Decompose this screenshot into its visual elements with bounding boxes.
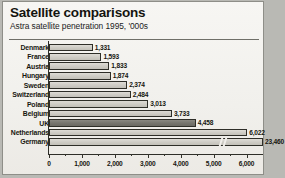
- bar-category-label: Denmark: [0, 43, 49, 52]
- x-axis-tick-minor: [98, 154, 99, 156]
- bar-row: UK4,458: [3, 119, 265, 128]
- bar-value-label: 3,013: [150, 100, 166, 108]
- bar-category-label: Poland: [0, 100, 49, 109]
- bar-track: 1,833: [49, 62, 263, 70]
- bar-row: Austria1,833: [3, 62, 265, 71]
- bar: [49, 53, 101, 61]
- chart-subtitle: Astra satellite penetration 1995, '000s: [10, 21, 257, 32]
- x-axis-tick-label: 0: [47, 160, 50, 167]
- x-axis-tick-label: 3,000: [140, 160, 156, 167]
- bar: [49, 119, 196, 127]
- header-divider: [9, 39, 259, 40]
- bar-row: Netherlands6,022: [3, 128, 265, 137]
- bar-track: 4,458: [49, 119, 263, 127]
- bar-value-label: 1,331: [95, 44, 111, 52]
- bar-row: France1,593: [3, 52, 265, 61]
- bar-row: Switzerland2,484: [3, 90, 265, 99]
- bar: [49, 138, 263, 146]
- x-axis-tick-major: [247, 154, 248, 158]
- x-axis-tick-label: 5,000: [206, 160, 222, 167]
- x-axis-tick-major: [49, 154, 50, 158]
- bar-track: 2,374: [49, 81, 263, 89]
- x-axis-tick-minor: [164, 154, 165, 156]
- bar-row: Germany23,460: [3, 137, 265, 146]
- bar-track: 1,874: [49, 72, 263, 80]
- bar-value-label: 3,733: [174, 110, 190, 118]
- x-axis-tick-label: 1,000: [74, 160, 90, 167]
- x-axis-tick-minor: [197, 154, 198, 156]
- bar-track: 1,331: [49, 44, 263, 52]
- bar-category-label: Belgium: [0, 109, 49, 118]
- x-axis-tick-minor: [131, 154, 132, 156]
- bar-row: Poland3,013: [3, 100, 265, 109]
- bar: [49, 62, 109, 70]
- bar-track: 6,022: [49, 129, 263, 137]
- x-axis-tick-major: [181, 154, 182, 158]
- bar-category-label: Netherlands: [0, 128, 49, 137]
- bar-value-label: 4,458: [198, 119, 214, 127]
- axis-break-marker: [220, 137, 229, 147]
- bar: [49, 100, 148, 108]
- bar-category-label: Hungary: [0, 71, 49, 80]
- bar-track: 23,460: [49, 138, 263, 146]
- bar-rows: Denmark1,331France1,593Austria1,833Hunga…: [3, 43, 265, 147]
- bar: [49, 91, 131, 99]
- bar-value-label: 1,833: [111, 62, 127, 70]
- chart-card: Satellite comparisons Astra satellite pe…: [2, 1, 264, 175]
- bar: [49, 44, 93, 52]
- x-axis-tick-minor: [65, 154, 66, 156]
- bar-value-label: 1,874: [113, 72, 129, 80]
- bar-value-label: 6,022: [249, 129, 265, 137]
- chart-card-inner: Satellite comparisons Astra satellite pe…: [3, 2, 263, 174]
- bar: [49, 110, 172, 118]
- bar-category-label: France: [0, 52, 49, 61]
- bar-track: 2,484: [49, 91, 263, 99]
- bar: [49, 129, 247, 137]
- x-axis-tick-label: 4,000: [173, 160, 189, 167]
- x-axis-tick-label: 6,000: [239, 160, 255, 167]
- chart-header: Satellite comparisons Astra satellite pe…: [10, 5, 257, 32]
- bar-row: Belgium3,733: [3, 109, 265, 118]
- y-axis-line: [48, 41, 49, 155]
- x-axis-tick-labels: 01,0002,0003,0004,0005,0006,000: [3, 160, 265, 170]
- chart-title: Satellite comparisons: [10, 5, 257, 20]
- bar-track: 1,593: [49, 53, 263, 61]
- bar-category-label: Austria: [0, 62, 49, 71]
- x-axis-tick-minor: [230, 154, 231, 156]
- bar-row: Denmark1,331: [3, 43, 265, 52]
- bar: [49, 81, 127, 89]
- x-axis-tick-label: 2,000: [107, 160, 123, 167]
- bar-track: 3,733: [49, 110, 263, 118]
- bar-category-label: UK: [0, 119, 49, 128]
- bar: [49, 72, 111, 80]
- bar-chart-plot: Denmark1,331France1,593Austria1,833Hunga…: [3, 41, 265, 174]
- bar-row: Hungary1,874: [3, 71, 265, 80]
- bar-value-label: 1,593: [103, 53, 119, 61]
- x-axis-tick-major: [214, 154, 215, 158]
- x-axis-tick-major: [115, 154, 116, 158]
- bar-value-label: 2,484: [133, 91, 149, 99]
- bar-row: Sweden2,374: [3, 81, 265, 90]
- bar-category-label: Germany: [0, 137, 49, 146]
- x-axis-tick-major: [82, 154, 83, 158]
- bar-track: 3,013: [49, 100, 263, 108]
- bar-value-label: 23,460: [265, 138, 268, 146]
- bar-category-label: Sweden: [0, 81, 49, 90]
- x-axis-tick-major: [148, 154, 149, 158]
- bar-value-label: 2,374: [129, 81, 145, 89]
- bar-category-label: Switzerland: [0, 90, 49, 99]
